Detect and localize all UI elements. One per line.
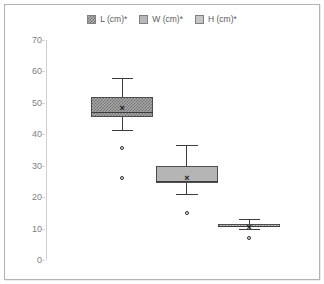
box-plot-group[interactable]: × <box>156 40 218 260</box>
legend-swatch-w-icon <box>139 15 148 24</box>
mean-marker-icon: × <box>120 103 125 112</box>
y-tick-mark <box>42 103 45 104</box>
whisker-upper-cap <box>176 145 197 146</box>
y-tick-mark <box>42 71 45 72</box>
whisker-lower-line <box>186 183 187 194</box>
outlier-point[interactable] <box>120 176 124 180</box>
whisker-upper-line <box>186 145 187 165</box>
whisker-lower-line <box>122 117 123 130</box>
legend-swatch-h-icon <box>195 15 204 24</box>
legend-label-l: L (cm)* <box>100 14 127 24</box>
y-tick-label: 60 <box>18 67 42 76</box>
y-tick-label: 0 <box>18 256 42 265</box>
chart-legend: L (cm)* W (cm)* H (cm)* <box>0 14 324 24</box>
mean-marker-icon: × <box>247 223 252 232</box>
outlier-point[interactable] <box>247 236 251 240</box>
y-tick-mark <box>42 40 45 41</box>
whisker-upper-cap <box>239 219 260 220</box>
y-tick-mark <box>42 166 45 167</box>
whisker-upper-line <box>122 78 123 97</box>
outlier-point[interactable] <box>120 146 124 150</box>
mean-marker-icon: × <box>184 174 189 183</box>
y-tick-label: 70 <box>18 36 42 45</box>
box-plot-group[interactable]: × <box>91 40 153 260</box>
outlier-point[interactable] <box>185 211 189 215</box>
legend-label-h: H (cm)* <box>208 14 237 24</box>
y-axis-ticks: 706050403020100 <box>14 40 42 260</box>
legend-item-w[interactable]: W (cm)* <box>139 14 183 24</box>
plot-area: ××× <box>46 40 300 260</box>
y-tick-mark <box>42 229 45 230</box>
whisker-lower-cap <box>112 130 133 131</box>
legend-item-h[interactable]: H (cm)* <box>195 14 237 24</box>
box-plot-group[interactable]: × <box>218 40 280 260</box>
legend-label-w: W (cm)* <box>152 14 183 24</box>
whisker-upper-cap <box>112 78 133 79</box>
y-tick-label: 30 <box>18 161 42 170</box>
y-tick-label: 50 <box>18 98 42 107</box>
y-tick-label: 20 <box>18 193 42 202</box>
y-tick-mark <box>42 197 45 198</box>
median-line <box>91 112 153 113</box>
legend-swatch-l-icon <box>87 15 96 24</box>
y-tick-label: 40 <box>18 130 42 139</box>
y-tick-mark <box>42 260 45 261</box>
boxplot-chart: L (cm)* W (cm)* H (cm)* 706050403020100 … <box>0 0 324 284</box>
y-tick-label: 10 <box>18 224 42 233</box>
whisker-lower-cap <box>176 194 197 195</box>
legend-item-l[interactable]: L (cm)* <box>87 14 127 24</box>
y-tick-mark <box>42 134 45 135</box>
